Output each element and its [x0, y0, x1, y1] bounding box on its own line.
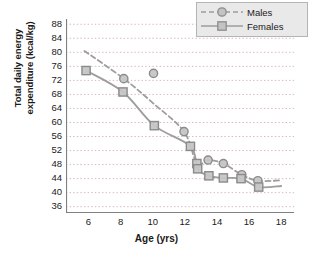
- data-point-females[interactable]: [255, 183, 263, 191]
- x-axis-tick-label: 12: [175, 216, 195, 227]
- y-axis-tick-label: 80: [38, 47, 62, 57]
- plot-svg: [66, 19, 294, 213]
- y-axis-tick-label: 76: [38, 61, 62, 71]
- x-axis-tick-label: 18: [271, 216, 291, 227]
- y-axis-tick-label: 52: [38, 145, 62, 155]
- data-point-females[interactable]: [219, 174, 227, 182]
- data-point-females[interactable]: [237, 175, 245, 183]
- data-point-males[interactable]: [204, 156, 212, 164]
- plot-area: [66, 19, 294, 213]
- y-axis-tick-label: 56: [38, 131, 62, 141]
- y-axis-tick-label: 64: [38, 103, 62, 113]
- x-axis-tick-label: 6: [78, 216, 98, 227]
- y-axis-tick-label: 88: [38, 19, 62, 29]
- data-point-males[interactable]: [180, 128, 188, 136]
- y-axis-tick-label: 72: [38, 75, 62, 85]
- data-point-females[interactable]: [205, 172, 213, 180]
- y-axis-tick-label: 44: [38, 173, 62, 183]
- y-axis-tick-label: 60: [38, 117, 62, 127]
- data-point-females[interactable]: [194, 165, 202, 173]
- data-point-females[interactable]: [82, 66, 90, 74]
- legend-swatch-males: [200, 5, 244, 19]
- data-point-females[interactable]: [119, 88, 127, 96]
- legend-label-females: Females: [247, 21, 283, 32]
- x-axis-tick-label: 14: [207, 216, 227, 227]
- chart-container: Total daily energy expenditure (kcal/kg)…: [0, 0, 313, 260]
- y-axis-title-line-1: Total daily energy: [12, 0, 24, 158]
- y-axis-tick-label: 36: [38, 201, 62, 211]
- data-point-males[interactable]: [149, 69, 157, 77]
- data-point-females[interactable]: [150, 122, 158, 130]
- legend-item-females[interactable]: Females: [200, 19, 304, 33]
- chart-legend: Males Females: [196, 2, 308, 37]
- series-line-males: [84, 51, 281, 181]
- legend-swatch-females: [200, 19, 244, 33]
- data-point-males[interactable]: [120, 75, 128, 83]
- y-axis-title-line-2: expenditure (kcal/kg): [24, 0, 36, 158]
- x-axis-tick-label: 10: [143, 216, 163, 227]
- y-axis-tick-label: 40: [38, 187, 62, 197]
- legend-label-males: Males: [247, 7, 272, 18]
- y-axis-tick-label: 68: [38, 89, 62, 99]
- x-axis-title: Age (yrs): [0, 233, 313, 244]
- y-axis-tick-label: 48: [38, 159, 62, 169]
- y-axis-tick-label: 84: [38, 33, 62, 43]
- x-axis-tick-label: 16: [239, 216, 259, 227]
- x-axis-tick-label: 8: [111, 216, 131, 227]
- legend-item-males[interactable]: Males: [200, 5, 304, 19]
- data-point-males[interactable]: [219, 159, 227, 167]
- data-point-females[interactable]: [186, 142, 194, 150]
- x-axis-tick-labels: 681012141618: [0, 216, 313, 230]
